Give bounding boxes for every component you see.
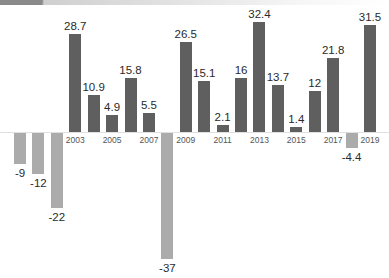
value-label-2007: 5.5	[129, 99, 169, 111]
bar-2009	[180, 42, 192, 132]
x-tick-label-2019: 2019	[352, 135, 388, 145]
value-label-2006: 15.8	[111, 64, 151, 76]
value-label-2017: 21.8	[313, 44, 353, 56]
value-label-2013: 32.4	[239, 8, 279, 20]
bar-2005	[106, 115, 118, 132]
value-label-2014: 13.7	[258, 71, 298, 83]
bar-2008	[161, 133, 173, 259]
x-tick-label-2011: 2011	[205, 135, 241, 145]
value-label-2008: -37	[147, 262, 187, 274]
value-label-2003: 28.7	[55, 20, 95, 32]
bar-chart: -9-12-2228.7200310.94.9200515.85.52007-3…	[0, 0, 389, 278]
value-label-2009: 26.5	[166, 28, 206, 40]
value-label-2010: 15.1	[184, 67, 224, 79]
x-tick-label-2009: 2009	[168, 135, 204, 145]
bar-2015	[290, 127, 302, 132]
bar-2019	[364, 25, 376, 132]
x-tick-label-2003: 2003	[57, 135, 93, 145]
value-label-2018: -4.4	[332, 151, 372, 163]
bar-2007	[143, 113, 155, 132]
bar-2010	[198, 81, 210, 132]
value-label-2002: -22	[37, 211, 77, 223]
bar-2017	[327, 58, 339, 132]
bar-2001	[32, 133, 44, 174]
x-tick-label-2013: 2013	[241, 135, 277, 145]
x-tick-label-2015: 2015	[278, 135, 314, 145]
bar-2011	[217, 125, 229, 132]
bar-2000	[14, 133, 26, 164]
value-label-2019: 31.5	[350, 11, 389, 23]
value-label-2004: 10.9	[74, 81, 114, 93]
x-tick-label-2005: 2005	[94, 135, 130, 145]
bar-2012	[235, 78, 247, 132]
bar-2016	[309, 91, 321, 132]
